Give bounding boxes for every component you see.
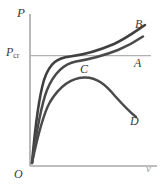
curve-label-C: C xyxy=(80,63,88,75)
y-axis-label: P xyxy=(17,6,25,19)
critical-pressure-tick-label: Pcr xyxy=(6,46,19,58)
origin-label: O xyxy=(14,168,23,180)
curve-label-B: B xyxy=(135,18,142,30)
curve-label-D: D xyxy=(130,115,139,127)
x-axis-label: v xyxy=(146,163,151,174)
critical-pressure-subscript: cr xyxy=(13,51,19,60)
pressure-volume-diagram: P Pcr B A C D O v xyxy=(0,0,162,191)
curve-label-A: A xyxy=(134,57,141,69)
